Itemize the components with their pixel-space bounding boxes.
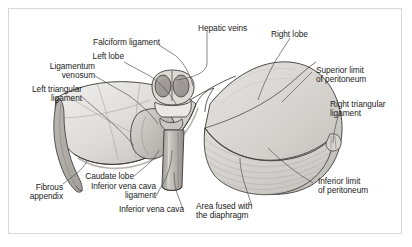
inferior-vena-cava-shape (162, 130, 184, 191)
label-superior-limit-of-peritoneum: Superior limit of peritoneum (316, 66, 366, 85)
label-inferior-vena-cava-ligament: Inferior vena cava ligament (62, 182, 156, 201)
label-area-fused-with-diaphragm: Area fused with the diaphragm (196, 202, 252, 221)
label-ligamentum-venosum: Ligamentum venosum (8, 62, 95, 81)
label-falciform-ligament: Falciform ligament (50, 38, 160, 47)
label-fibrous-appendix: Fibrous appendix (8, 183, 63, 202)
label-right-lobe: Right lobe (271, 30, 308, 39)
label-right-triangular-ligament: Right triangular ligament (330, 100, 385, 119)
label-inferior-vena-cava: Inferior vena cava (110, 205, 184, 214)
label-left-lobe: Left lobe (60, 52, 124, 61)
label-inferior-limit-of-peritoneum: Inferior limit of peritoneum (318, 177, 368, 196)
label-hepatic-veins: Hepatic veins (198, 24, 247, 33)
label-left-triangular-ligament: Left triangular ligament (6, 85, 82, 104)
liver-anatomy-figure: Hepatic veins Falciform ligament Left lo… (0, 0, 412, 247)
label-caudate-lobe: Caudate lobe (74, 172, 134, 181)
